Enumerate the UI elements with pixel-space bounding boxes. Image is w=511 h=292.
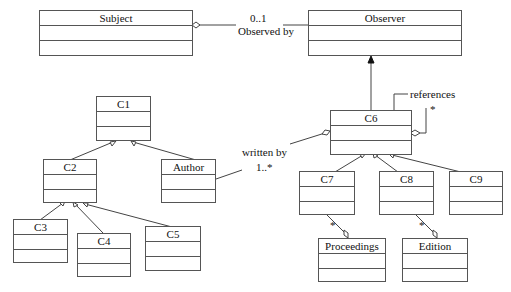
written-by-line-upper [290,133,325,144]
c7-proceedings-multiplicity-label: * [330,219,336,231]
class-name: C7 [300,172,354,187]
class-c5[interactable]: C5 [145,226,201,271]
aggregation-diamond-icon [344,230,348,238]
class-attributes [300,187,354,202]
class-attributes [380,187,433,202]
class-attributes [78,249,130,264]
class-attributes [403,254,467,269]
class-attributes [97,112,150,127]
class-c4[interactable]: C4 [77,233,131,277]
observed-multiplicity-label: 0..1 [250,12,267,24]
class-attributes [146,242,200,257]
class-name: C6 [331,111,411,126]
class-name: Proceedings [319,239,385,254]
class-edition[interactable]: Edition [402,238,468,282]
author-c1-line [133,142,196,160]
observed-by-label: Observed by [238,25,294,37]
c5-c2-line [85,204,172,227]
c2-c1-line [70,142,113,160]
class-attributes [44,175,96,190]
c8-edition-multiplicity-label: * [419,219,425,231]
class-name: Observer [309,11,461,26]
class-attributes [40,26,192,41]
written-by-line-lower [216,170,242,179]
class-name: C8 [380,172,433,187]
class-name: Subject [40,11,192,26]
references-multiplicity-label: * [430,103,436,115]
class-name: C3 [14,220,67,235]
c3-c2-line [40,203,63,220]
class-c3[interactable]: C3 [13,219,68,263]
references-label: references [410,88,455,100]
class-attributes [14,235,67,250]
class-attributes [162,175,215,190]
class-attributes [309,26,461,41]
aggregation-diamond-icon [433,230,437,238]
class-subject[interactable]: Subject [39,10,193,56]
written-by-multiplicity-label: 1..* [256,161,273,173]
aggregation-diamond-icon [192,22,200,28]
class-proceedings[interactable]: Proceedings [318,238,386,282]
class-attributes [331,126,411,141]
class-name: C1 [97,97,150,112]
written-by-label: written by [242,146,287,158]
class-name: C9 [450,172,502,187]
triangle-icon [110,141,116,146]
class-name: C5 [146,227,200,242]
c4-c2-line [75,204,103,233]
class-name: Edition [403,239,467,254]
triangle-icon [83,203,88,207]
class-attributes [319,254,385,269]
uml-diagram-canvas: Subject Observer C1 C2 Author C3 C4 C5 C… [0,0,511,292]
class-c8[interactable]: C8 [379,171,434,215]
class-c7[interactable]: C7 [299,171,355,215]
class-c6[interactable]: C6 [330,110,412,155]
triangle-icon [131,141,136,146]
class-attributes [450,187,502,202]
class-observer[interactable]: Observer [308,10,462,56]
class-author[interactable]: Author [161,159,216,203]
class-c9[interactable]: C9 [449,171,503,215]
class-c1[interactable]: C1 [96,96,151,141]
arrowhead-icon [368,56,374,63]
references-line-right [420,108,426,133]
class-name: Author [162,160,215,175]
class-name: C2 [44,160,96,175]
aggregation-diamond-icon [322,130,330,135]
class-c2[interactable]: C2 [43,159,97,203]
class-name: C4 [78,234,130,249]
